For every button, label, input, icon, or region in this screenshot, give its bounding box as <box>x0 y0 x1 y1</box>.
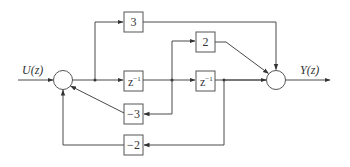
block-diagram: U(z) 3 z−1 2 z−1 −3 −2 Y(z) <box>0 0 350 167</box>
gain-neg2-label: −2 <box>127 138 140 152</box>
gain-2-to-output-sum <box>215 42 269 74</box>
branch-to-gain-neg3 <box>144 80 172 114</box>
branch-to-gain-3 <box>95 22 123 80</box>
output-summing-junction <box>267 71 286 90</box>
input-summing-junction <box>54 71 73 90</box>
input-label: U(z) <box>22 63 43 77</box>
gain-2-label: 2 <box>203 35 209 49</box>
gain-neg3-feedback <box>71 86 125 113</box>
branch-to-gain-2 <box>172 41 195 80</box>
gain-neg2-feedback <box>63 90 124 145</box>
output-label: Y(z) <box>300 63 319 77</box>
gain-3-label: 3 <box>131 15 137 29</box>
gain-neg3-label: −3 <box>127 107 140 121</box>
